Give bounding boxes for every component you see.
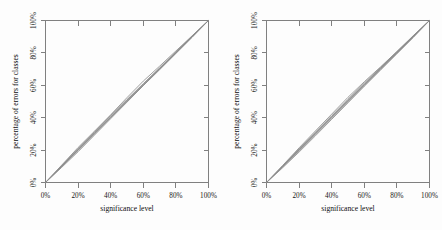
y-tick-label: 100% <box>251 12 259 29</box>
y-tick-label: 60% <box>30 79 38 92</box>
y-tick-label: 40% <box>251 111 259 124</box>
x-tick-label: 20% <box>293 192 306 200</box>
plot-svg-left: 0% 20% 40% 60% 80% 100% 0% 20% 40% 60% 8… <box>0 0 221 230</box>
y-tick-label: 60% <box>251 79 259 92</box>
y-axis-title: percentage of errors for classes <box>11 54 20 148</box>
x-axis-title: significance level <box>100 204 153 213</box>
x-tick-label: 20% <box>72 192 85 200</box>
x-tick-label: 100% <box>421 192 438 200</box>
y-tick-label: 0% <box>30 178 38 188</box>
x-tick-label: 40% <box>104 192 117 200</box>
x-tick-label: 0% <box>41 192 51 200</box>
y-tick-label: 80% <box>30 46 38 59</box>
x-tick-label: 40% <box>325 192 338 200</box>
y-axis-title: percentage of errors for classes <box>232 54 241 148</box>
x-tick-label: 60% <box>358 192 371 200</box>
x-tick-label: 80% <box>390 192 403 200</box>
x-tick-label: 60% <box>137 192 150 200</box>
data-lines-left <box>46 21 209 183</box>
y-tick-label: 20% <box>30 144 38 157</box>
chart-panel-left: 0% 20% 40% 60% 80% 100% 0% 20% 40% 60% 8… <box>0 0 221 230</box>
y-tick-label: 20% <box>251 144 259 157</box>
data-lines-right <box>267 21 430 183</box>
chart-panel-right: 0% 20% 40% 60% 80% 100% 0% 20% 40% 60% 8… <box>221 0 442 230</box>
y-tick-label: 0% <box>251 178 259 188</box>
y-tick-label: 80% <box>251 46 259 59</box>
x-axis-title: significance level <box>321 204 374 213</box>
x-tick-labels-left: 0% 20% 40% 60% 80% 100% <box>41 192 217 200</box>
x-tick-label: 80% <box>169 192 182 200</box>
x-tick-label: 0% <box>262 192 272 200</box>
x-tick-labels-right: 0% 20% 40% 60% 80% 100% <box>262 192 438 200</box>
x-tick-label: 100% <box>200 192 217 200</box>
figure-container: 0% 20% 40% 60% 80% 100% 0% 20% 40% 60% 8… <box>0 0 442 230</box>
y-tick-labels-left: 0% 20% 40% 60% 80% 100% <box>30 12 38 187</box>
plot-svg-right: 0% 20% 40% 60% 80% 100% 0% 20% 40% 60% 8… <box>221 0 442 230</box>
y-tick-label: 40% <box>30 111 38 124</box>
y-tick-label: 100% <box>30 12 38 29</box>
y-tick-labels-right: 0% 20% 40% 60% 80% 100% <box>251 12 259 187</box>
